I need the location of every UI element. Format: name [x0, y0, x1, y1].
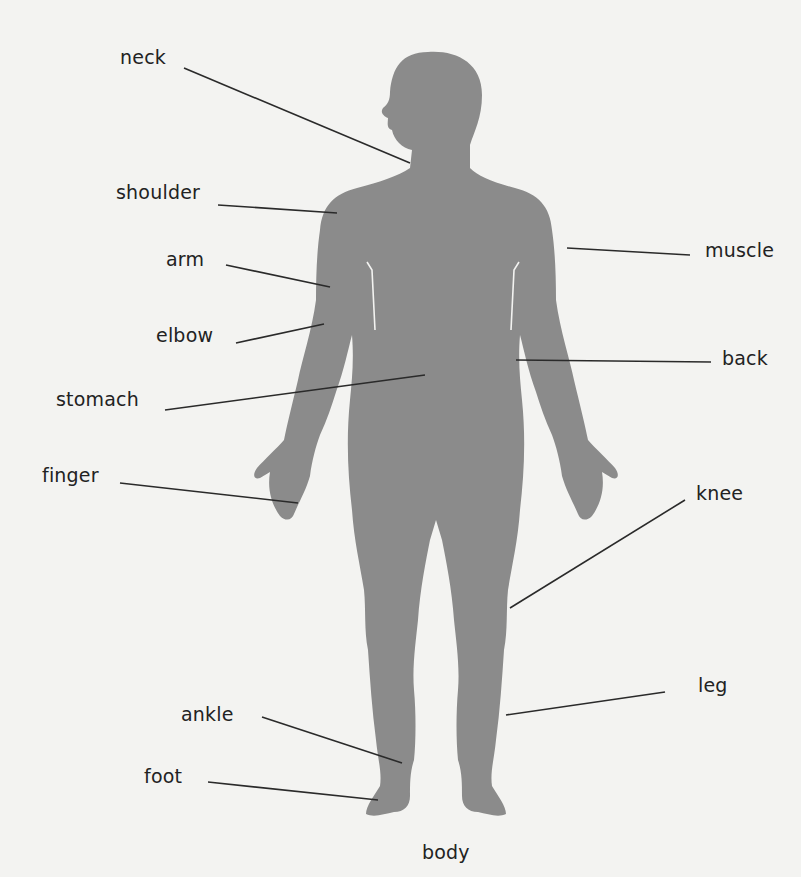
- label-back: back: [722, 349, 768, 368]
- leader-foot: [208, 782, 378, 800]
- label-finger: finger: [42, 466, 99, 485]
- diagram-title: body: [422, 843, 470, 862]
- leader-neck: [184, 68, 410, 163]
- leader-knee: [510, 500, 685, 608]
- label-stomach: stomach: [56, 390, 139, 409]
- leader-leg: [506, 692, 665, 715]
- leader-muscle: [567, 248, 690, 255]
- label-leg: leg: [698, 676, 728, 695]
- label-neck: neck: [120, 48, 166, 67]
- label-muscle: muscle: [705, 241, 774, 260]
- body-parts-diagram: neck shoulder arm elbow stomach finger a…: [0, 0, 801, 877]
- label-elbow: elbow: [156, 326, 213, 345]
- leader-shoulder: [218, 205, 337, 213]
- label-shoulder: shoulder: [116, 183, 200, 202]
- label-foot: foot: [144, 767, 182, 786]
- label-ankle: ankle: [181, 705, 234, 724]
- human-silhouette: [254, 52, 618, 816]
- label-knee: knee: [696, 484, 743, 503]
- leader-arm: [226, 265, 330, 287]
- label-arm: arm: [166, 250, 204, 269]
